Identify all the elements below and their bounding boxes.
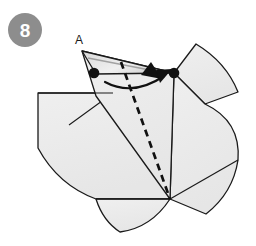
diagram-canvas: A 8	[0, 0, 256, 246]
step-badge-number: 8	[20, 20, 31, 41]
reference-dot-left	[89, 68, 100, 79]
origami-step-diagram: A 8	[0, 0, 256, 246]
vertex-label-a: A	[75, 33, 83, 47]
reference-dot-right	[169, 68, 180, 79]
step-number-badge: 8	[8, 13, 42, 47]
